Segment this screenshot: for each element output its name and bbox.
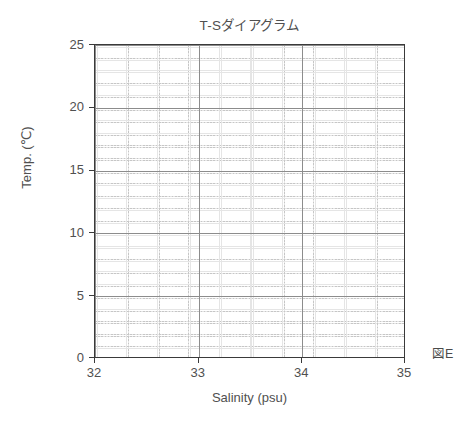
tick-y-25: [89, 44, 94, 45]
gridline-major-horizontal-20: [95, 108, 404, 109]
xticklabel-1: 33: [175, 365, 221, 380]
gridline-major-vertical-32: [95, 45, 96, 357]
xticklabel-3: 35: [381, 365, 427, 380]
gridline-major-vertical-33: [199, 45, 200, 357]
yticklabel-2: 10: [52, 225, 84, 240]
gridline-major-horizontal-25: [95, 45, 404, 46]
tick-y-15: [89, 170, 94, 171]
chart-title: T-Sダイアグラム: [94, 14, 405, 34]
tick-y-20: [89, 107, 94, 108]
gridline-major-horizontal-15: [95, 171, 404, 172]
yticklabel-3: 15: [52, 162, 84, 177]
tick-y-0: [89, 357, 94, 358]
tick-y-5: [89, 295, 94, 296]
xticklabel-2: 34: [278, 365, 324, 380]
tick-x-32: [94, 358, 95, 363]
yticklabel-1: 5: [52, 288, 84, 303]
gridline-major-vertical-34: [302, 45, 303, 357]
yticklabel-5: 25: [52, 37, 84, 52]
tick-y-10: [89, 232, 94, 233]
x-axis-label: Salinity (psu): [94, 390, 405, 405]
plot-area: [94, 44, 405, 358]
minor-gridlines-dot-mask: [95, 45, 404, 357]
tick-x-33: [198, 358, 199, 363]
gridline-major-horizontal-10: [95, 233, 404, 234]
tick-x-35: [404, 358, 405, 363]
tick-x-34: [301, 358, 302, 363]
yticklabel-4: 20: [52, 99, 84, 114]
figure-annotation-label: 図E: [432, 343, 453, 362]
gridline-major-horizontal-5: [95, 296, 404, 297]
yticklabel-0: 0: [52, 350, 84, 365]
chart-figure: T-Sダイアグラム 32 33 34 35 0 5 10 15 20 25 Sa…: [0, 0, 465, 427]
y-axis-label: Temp. (℃): [19, 103, 34, 213]
xticklabel-0: 32: [71, 365, 117, 380]
